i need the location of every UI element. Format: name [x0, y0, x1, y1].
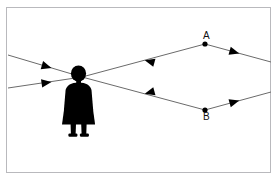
person-skirt	[62, 109, 95, 125]
person-left-leg	[71, 124, 76, 134]
arrowhead-a-outgoing-icon	[229, 47, 241, 58]
person-head	[71, 66, 86, 82]
ray-b-to-eye-line	[82, 77, 205, 110]
point-label-b: B	[203, 112, 210, 122]
point-markers-group	[202, 41, 207, 112]
arrowhead-incoming-upper-icon	[41, 61, 53, 72]
person-left-foot	[68, 133, 77, 136]
ray-diagram-svg	[0, 0, 279, 180]
person-right-foot	[80, 133, 89, 136]
point-marker-a	[202, 41, 207, 46]
diagram-canvas: A B	[0, 0, 279, 180]
ray-a-to-eye-line	[82, 44, 205, 77]
arrowhead-incoming-lower-icon	[41, 78, 52, 88]
person-torso	[64, 82, 93, 110]
person-silhouette-icon	[62, 66, 95, 137]
arrowhead-b-outgoing-icon	[229, 97, 241, 108]
point-label-a: A	[203, 31, 210, 41]
person-right-leg	[81, 124, 86, 134]
